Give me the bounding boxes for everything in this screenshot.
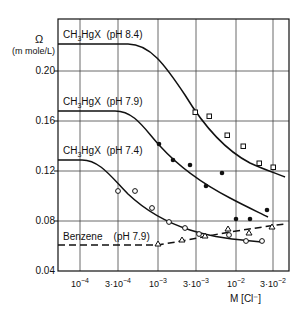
x-tick-label: 3·10−2 bbox=[260, 277, 286, 289]
annotation-ph84: CH3HgX (pH 8.4) bbox=[63, 30, 143, 42]
y-axis-units: (m mole/L) bbox=[12, 47, 55, 56]
annotation-ph79: CH3HgX (pH 7.9) bbox=[63, 97, 143, 109]
x-tick-label: 10−4 bbox=[71, 277, 89, 289]
x-tick-label: 3·10−3 bbox=[183, 277, 209, 289]
x-tick-label: 3·10−4 bbox=[105, 277, 131, 289]
curve-ph74 bbox=[58, 160, 262, 242]
y-tick-label: 0.08 bbox=[36, 216, 55, 226]
y-tick-label: 0.16 bbox=[36, 116, 55, 126]
x-tick-label: 10−2 bbox=[227, 277, 245, 289]
x-axis-label: M [Cl⁻] bbox=[230, 294, 261, 304]
annotation-benzene: Benzene (pH 7.9) bbox=[63, 232, 150, 242]
y-axis-symbol: Ω bbox=[35, 34, 43, 45]
curve-ph79 bbox=[58, 111, 268, 217]
annotation-ph74: CH3HgX (pH 7.4) bbox=[63, 146, 143, 158]
points-ph84 bbox=[193, 110, 276, 170]
y-tick-label: 0.20 bbox=[36, 66, 55, 76]
y-tick-label: 0.12 bbox=[36, 166, 55, 176]
x-tick-label: 10−3 bbox=[149, 277, 167, 289]
y-tick-label: 0.04 bbox=[36, 266, 55, 276]
